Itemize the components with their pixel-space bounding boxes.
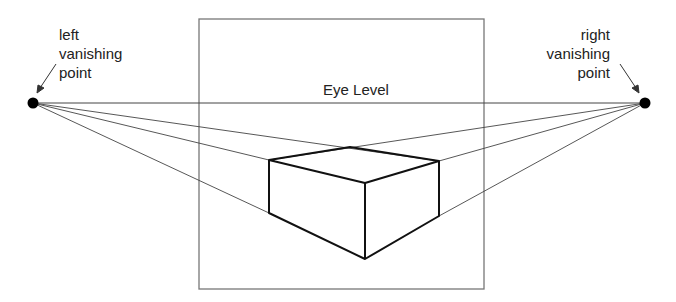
perspective-diagram: left vanishing point right vanishing poi… [0, 0, 676, 302]
right-vp-label-line-2: vanishing [547, 45, 610, 62]
box [269, 147, 439, 259]
right-vp-construction-lines [269, 103, 645, 216]
left-arrow-icon [37, 64, 56, 93]
box-sides [269, 160, 439, 259]
right-vp-label-line-3: point [577, 64, 610, 81]
right-vanishing-point-dot [640, 98, 651, 109]
right-arrow-icon [620, 64, 639, 93]
left-vp-construction-lines [33, 103, 439, 213]
left-vp-label-line-1: left [59, 26, 80, 43]
left-vp-label-line-3: point [59, 64, 92, 81]
box-top-face [269, 147, 439, 183]
eye-level-label: Eye Level [323, 81, 389, 98]
right-vp-label-line-1: right [581, 26, 611, 43]
left-vanishing-point-dot [28, 98, 39, 109]
left-vp-label-line-2: vanishing [59, 45, 122, 62]
